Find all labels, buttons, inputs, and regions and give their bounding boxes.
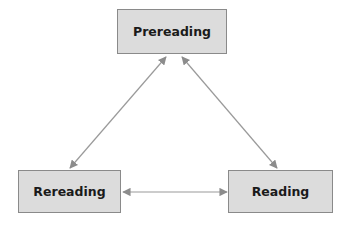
arrow-prereading-rereading (70, 57, 166, 168)
node-reading: Reading (228, 170, 333, 213)
node-prereading-label: Prereading (133, 24, 211, 39)
arrow-prereading-reading (182, 57, 277, 168)
node-reading-label: Reading (252, 184, 310, 199)
node-rereading-label: Rereading (33, 184, 105, 199)
node-rereading: Rereading (18, 170, 121, 213)
node-prereading: Prereading (117, 9, 227, 54)
